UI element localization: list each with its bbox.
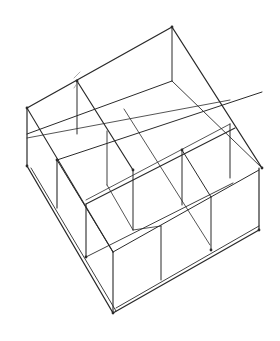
vertex-dot [261,167,264,170]
vertex-dot [56,159,59,162]
vertex-dot [258,229,261,232]
edge-line [27,81,172,134]
vertex-dot [76,80,79,83]
line-group [27,27,262,313]
vertex-dot [210,249,213,252]
edge-line [182,150,211,197]
edge-line [74,72,80,78]
vertex-dot [132,169,135,172]
edge-line [27,166,113,313]
edge-line [57,160,113,252]
edge-line [57,92,262,160]
vertex-dot [26,107,29,110]
edge-line [124,109,210,245]
vertex-dot [85,256,88,259]
edge-line [113,230,259,313]
edge-line [86,128,235,204]
edge-line [86,124,230,200]
vertex-dot [181,149,184,152]
vertex-dot [26,165,29,168]
edge-line [27,100,230,138]
edge-line [27,27,172,108]
vertex-dot [171,26,174,29]
vertex-group [26,26,264,315]
edge-line [172,27,262,168]
edge-line [77,81,133,170]
edge-line [107,185,133,230]
edge-line [113,170,259,252]
vertex-dot [112,312,115,315]
drawing-canvas [0,0,280,341]
isometric-tray-drawing [0,0,280,341]
edge-line [31,168,116,311]
